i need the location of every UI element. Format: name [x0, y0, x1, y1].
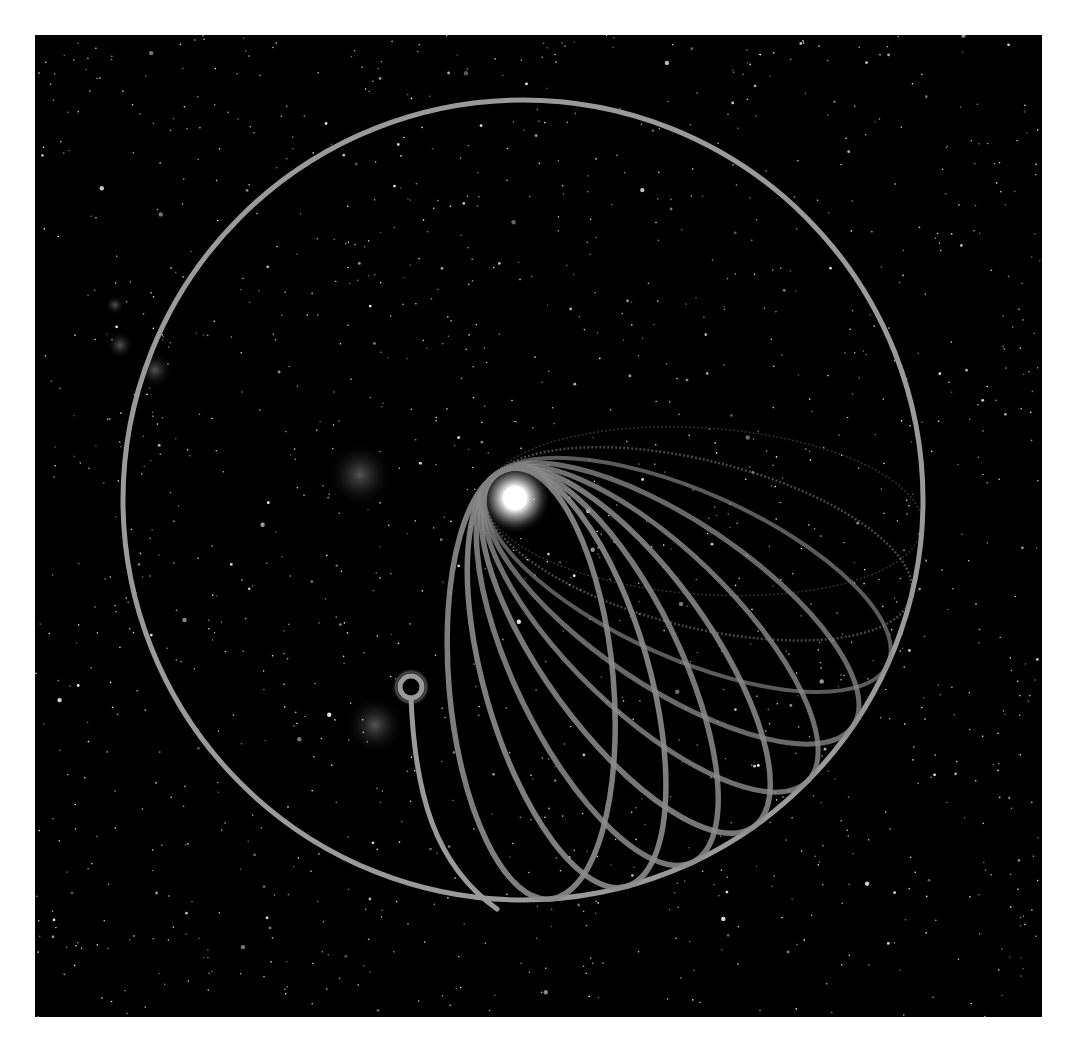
orbit-ellipse — [466, 410, 931, 678]
orbit-diagram — [35, 35, 1042, 1017]
starfield — [35, 35, 1041, 1017]
nebula — [105, 295, 125, 315]
central-star — [479, 462, 551, 534]
diagram-canvas — [35, 35, 1042, 1017]
transfer-trajectory — [392, 668, 497, 909]
star-core — [503, 486, 527, 510]
orbit-ellipse — [454, 410, 922, 740]
nebula — [345, 695, 405, 755]
nebula-clouds — [105, 295, 405, 755]
nebula — [106, 331, 134, 359]
nebula — [326, 441, 394, 509]
